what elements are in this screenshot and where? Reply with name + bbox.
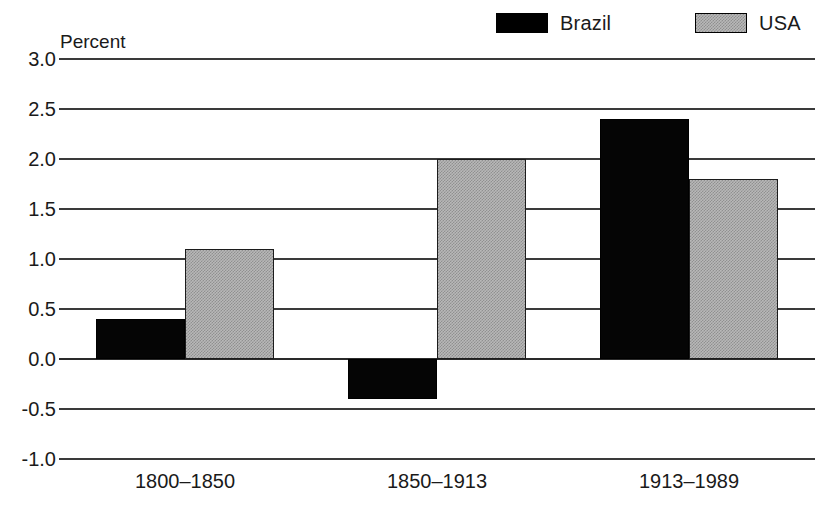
x-axis-tick-label: 1800–1850 (59, 470, 311, 493)
gridline (59, 58, 815, 60)
y-axis-tick-label: 3.0 (4, 49, 56, 69)
y-axis-tick-label: 1.5 (4, 199, 56, 219)
y-axis-tick-label: 2.0 (4, 149, 56, 169)
plot-area: 3.02.52.01.51.00.50.0-0.5-1.01800–185018… (0, 0, 819, 505)
bar-chart: Brazil USA Percent 3.02.52.01.51.00.50.0… (0, 0, 819, 505)
gridline (59, 458, 815, 460)
bar-brazil-2 (600, 119, 689, 359)
y-axis-tick-label: 1.0 (4, 249, 56, 269)
y-axis-tick-label: 0.0 (4, 349, 56, 369)
y-axis-tick-label: 2.5 (4, 99, 56, 119)
bar-brazil-1 (348, 359, 437, 399)
x-axis-tick-label: 1850–1913 (311, 470, 563, 493)
bar-usa-1 (437, 159, 526, 359)
gridline (59, 108, 815, 110)
gridline (59, 408, 815, 410)
y-axis-tick-label: -1.0 (4, 449, 56, 469)
bar-usa-2 (689, 179, 778, 359)
bar-brazil-0 (96, 319, 185, 359)
x-axis-tick-label: 1913–1989 (563, 470, 815, 493)
y-axis-tick-label: 0.5 (4, 299, 56, 319)
y-axis-tick-label: -0.5 (4, 399, 56, 419)
bar-usa-0 (185, 249, 274, 359)
